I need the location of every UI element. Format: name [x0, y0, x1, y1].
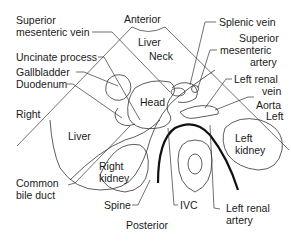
leader-uncinate [98, 57, 140, 120]
label-neck: Neck [149, 50, 174, 62]
anterior-arc [132, 27, 165, 32]
leader-gallbladder [76, 72, 118, 86]
label-ivc: IVC [180, 199, 198, 211]
label-duodenum: Duodenum [16, 78, 68, 90]
label-liver-top: Liver [138, 36, 161, 48]
label-spine: Spine [104, 199, 131, 211]
label-cbd-2: bile duct [16, 189, 55, 201]
label-cbd-1: Common [16, 177, 59, 189]
gallbladder-shape [106, 75, 131, 101]
label-smv-1: Superior [16, 14, 56, 26]
label-left-kidney-2: kidney [235, 144, 266, 156]
label-sma-1: Superior [239, 32, 279, 44]
label-right: Right [16, 108, 41, 120]
left-renal-vein-shape [180, 106, 218, 119]
label-gallbladder: Gallbladder [16, 66, 70, 78]
label-smv-2: mesenteric vein [16, 26, 90, 38]
leader-splenic [190, 22, 216, 85]
leader-ivc [168, 128, 178, 205]
label-lrv-2: vein [262, 85, 281, 97]
label-posterior: Posterior [126, 219, 169, 231]
label-head: Head [140, 96, 165, 108]
label-liver-right: Liver [68, 130, 91, 142]
vertebral-body [178, 140, 212, 192]
label-lrv-1: Left renal [234, 73, 278, 85]
label-sma-2: mesenteric [220, 44, 271, 56]
label-uncinate: Uncinate process [16, 51, 97, 63]
spinal-canal [188, 154, 202, 174]
label-sma-3: artery [250, 56, 278, 68]
leader-spine [132, 180, 150, 205]
label-lra-2: artery [226, 214, 254, 226]
label-aorta: Aorta [256, 99, 281, 111]
label-lra-1: Left renal [226, 202, 270, 214]
label-left-kidney-1: Left [235, 132, 253, 144]
label-right-kidney-1: Right [99, 160, 124, 172]
pancreas-transverse-diagram: Anterior Posterior Right Left Superior m… [0, 0, 291, 241]
leader-aorta [215, 97, 254, 110]
leader-lrv [205, 79, 232, 108]
label-right-kidney-2: kidney [99, 172, 130, 184]
label-splenic-vein: Splenic vein [219, 16, 276, 28]
label-left: Left [266, 110, 284, 122]
label-anterior: Anterior [124, 13, 161, 25]
smv-vessel [171, 88, 185, 96]
leader-duodenum [67, 84, 122, 118]
